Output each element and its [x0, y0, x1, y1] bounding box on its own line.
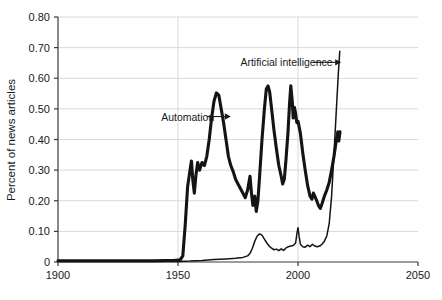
y-tick-label: 0.40 [29, 134, 50, 146]
y-tick-label: 0.30 [29, 164, 50, 176]
x-tick-label: 1900 [46, 269, 70, 281]
y-tick-label: 0.50 [29, 103, 50, 115]
y-tick-label: 0.10 [29, 225, 50, 237]
y-tick-label: 0.20 [29, 195, 50, 207]
x-tick-label: 1950 [166, 269, 190, 281]
chart-background [0, 0, 442, 300]
line-chart: 00.100.200.300.400.500.600.700.80 190019… [0, 0, 442, 300]
x-tick-label: 2000 [286, 269, 310, 281]
y-tick-labels: 00.100.200.300.400.500.600.700.80 [29, 11, 50, 268]
annotation-label-automation: Automation [161, 111, 214, 123]
chart-container: 00.100.200.300.400.500.600.700.80 190019… [0, 0, 442, 300]
y-tick-label: 0 [44, 256, 50, 268]
y-axis-label: Percent of news articles [5, 79, 17, 201]
x-tick-label: 2050 [406, 269, 430, 281]
y-tick-label: 0.60 [29, 72, 50, 84]
y-tick-label: 0.80 [29, 11, 50, 23]
y-tick-label: 0.70 [29, 42, 50, 54]
